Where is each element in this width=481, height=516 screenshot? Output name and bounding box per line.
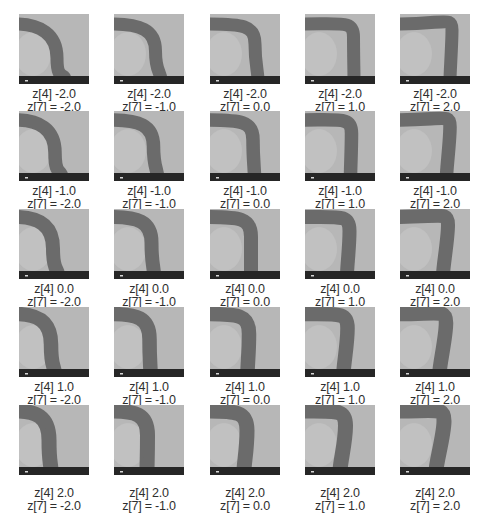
tile-image	[19, 209, 89, 279]
generated-image-tile	[19, 209, 89, 279]
generated-image-tile	[400, 14, 470, 84]
bottom-strip	[19, 76, 89, 84]
generated-image-tile	[305, 307, 375, 377]
generated-image-tile	[19, 111, 89, 181]
tile-image	[19, 307, 89, 377]
bottom-strip	[400, 369, 470, 377]
generated-image-tile	[305, 111, 375, 181]
generated-image-tile	[19, 14, 89, 84]
generated-image-tile	[19, 307, 89, 377]
tile-image	[210, 405, 280, 475]
bottom-strip	[305, 369, 375, 377]
generated-image-tile	[400, 111, 470, 181]
bottom-strip	[400, 467, 470, 475]
generated-image-tile	[210, 111, 280, 181]
tile-image	[210, 209, 280, 279]
bottom-strip	[210, 369, 280, 377]
bottom-strip	[114, 271, 184, 279]
bottom-strip	[305, 76, 375, 84]
tile-image	[305, 14, 375, 84]
bottom-strip	[400, 271, 470, 279]
bottom-strip	[19, 271, 89, 279]
tile-image	[400, 405, 470, 475]
tile-image	[114, 405, 184, 475]
bottom-strip	[400, 173, 470, 181]
cell-label-z7: z[7] = 1.0	[292, 500, 388, 513]
tile-image	[400, 209, 470, 279]
tile-image	[400, 111, 470, 181]
bottom-strip	[210, 271, 280, 279]
cell-label-z7: z[7] = -1.0	[101, 500, 197, 513]
tile-image	[114, 209, 184, 279]
bottom-strip	[305, 467, 375, 475]
bottom-strip	[400, 76, 470, 84]
bottom-strip	[19, 369, 89, 377]
bottom-strip	[19, 173, 89, 181]
generated-image-tile	[210, 209, 280, 279]
generated-image-tile	[210, 307, 280, 377]
tile-image	[305, 209, 375, 279]
generated-image-tile	[210, 405, 280, 475]
tile-image	[210, 307, 280, 377]
generated-image-tile	[19, 405, 89, 475]
tile-image	[19, 14, 89, 84]
cell-label-z7: z[7] = 2.0	[387, 500, 481, 513]
bottom-strip	[305, 173, 375, 181]
tile-image	[114, 14, 184, 84]
tile-image	[400, 14, 470, 84]
bottom-strip	[114, 467, 184, 475]
bottom-strip	[210, 173, 280, 181]
generated-image-tile	[114, 405, 184, 475]
generated-image-tile	[400, 209, 470, 279]
tile-image	[210, 111, 280, 181]
tile-image	[210, 14, 280, 84]
tile-image	[400, 307, 470, 377]
generated-image-tile	[305, 405, 375, 475]
generated-image-tile	[114, 111, 184, 181]
bottom-strip	[19, 467, 89, 475]
bottom-strip	[114, 369, 184, 377]
generated-image-tile	[305, 209, 375, 279]
bottom-strip	[210, 467, 280, 475]
generated-image-tile	[305, 14, 375, 84]
tile-image	[114, 111, 184, 181]
generated-image-tile	[114, 209, 184, 279]
bottom-strip	[210, 76, 280, 84]
tile-image	[19, 111, 89, 181]
generated-image-tile	[400, 307, 470, 377]
tile-image	[19, 405, 89, 475]
generated-image-tile	[210, 14, 280, 84]
tile-image	[305, 111, 375, 181]
tile-image	[305, 405, 375, 475]
tile-image	[114, 307, 184, 377]
cell-label-z7: z[7] = 0.0	[197, 500, 293, 513]
bottom-strip	[114, 76, 184, 84]
generated-image-tile	[114, 14, 184, 84]
tile-image	[305, 307, 375, 377]
bottom-strip	[305, 271, 375, 279]
generated-image-tile	[114, 307, 184, 377]
cell-label-z7: z[7] = -2.0	[6, 500, 102, 513]
generated-image-tile	[400, 405, 470, 475]
bottom-strip	[114, 173, 184, 181]
